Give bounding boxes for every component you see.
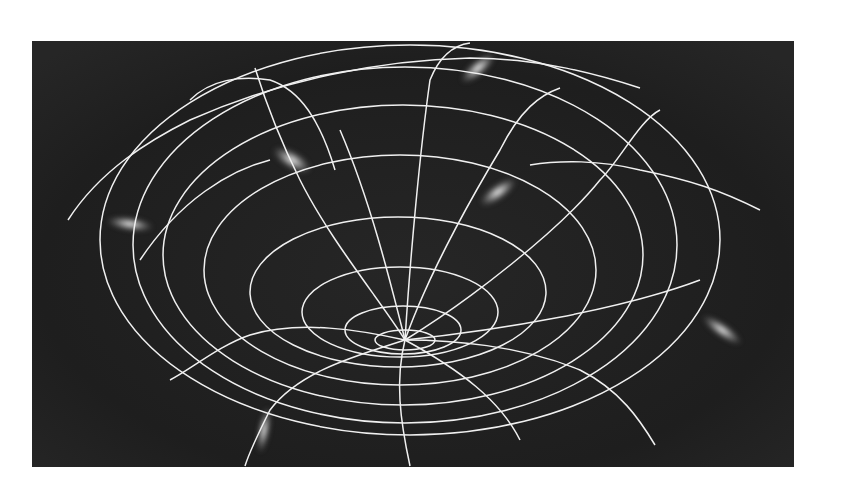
spacetime-grid-diagram	[32, 41, 794, 467]
gravity-well-figure	[32, 41, 794, 467]
